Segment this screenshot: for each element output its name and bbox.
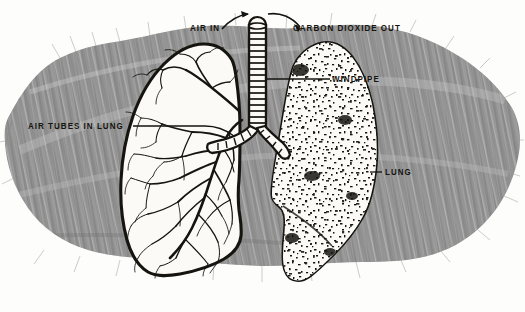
label-air-tubes-in-lung: AIR TUBES IN LUNG (28, 122, 124, 131)
label-windpipe: WINDPIPE (332, 75, 380, 84)
lung-diagram-artwork (0, 0, 525, 312)
label-carbon-dioxide-out: CARBON DIOXIDE OUT (293, 24, 401, 33)
illustration-page: AIR IN CARBON DIOXIDE OUT WINDPIPE LUNG … (0, 0, 525, 312)
label-lung: LUNG (385, 168, 412, 177)
label-air-in: AIR IN (190, 24, 220, 33)
